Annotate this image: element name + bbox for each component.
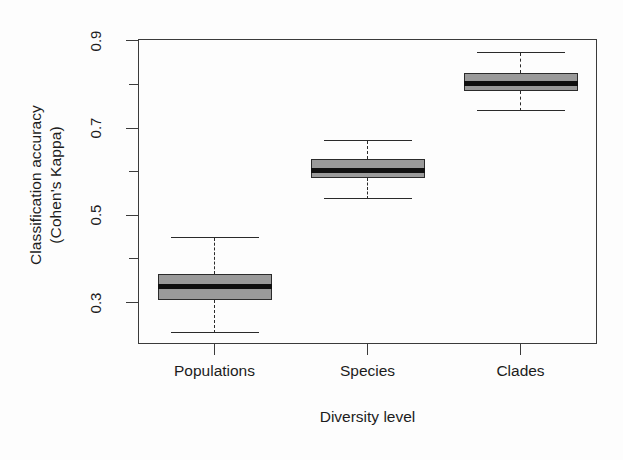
boxplot-figure: Classification accuracy (Cohen's Kappa) …	[0, 0, 623, 460]
boxplot-clades	[0, 0, 623, 460]
lower-whisker-cap	[477, 110, 565, 111]
lower-whisker-line	[520, 91, 521, 111]
upper-whisker-line	[520, 53, 521, 73]
median-line	[464, 81, 578, 86]
upper-whisker-cap	[477, 52, 565, 53]
